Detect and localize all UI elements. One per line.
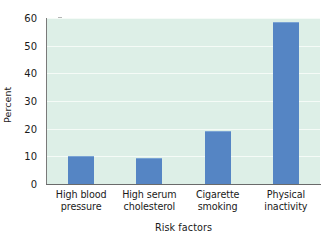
bar[interactable] <box>68 156 94 184</box>
x-axis-tick-labels: High bloodpressureHigh serumcholesterolC… <box>47 189 320 221</box>
y-tick-label: 50 <box>24 40 37 51</box>
x-tick-label: Physicalinactivity <box>246 189 326 212</box>
y-tick-label: 20 <box>24 123 37 134</box>
y-axis-tick-labels: 0102030405060 <box>16 0 42 250</box>
bar[interactable] <box>273 22 299 184</box>
y-tick-label: 40 <box>24 68 37 79</box>
y-tick-label: 0 <box>31 179 37 190</box>
x-axis-spine <box>46 184 321 185</box>
bar[interactable] <box>136 158 162 184</box>
y-tick-label: 60 <box>24 13 37 24</box>
x-tick-label-line: Physical <box>246 189 326 201</box>
bar[interactable] <box>205 131 231 184</box>
x-tick-label-line: inactivity <box>246 201 326 213</box>
x-axis-title: Risk factors <box>47 222 320 233</box>
y-axis-title: Percent <box>0 72 16 138</box>
y-tick-label: 30 <box>24 96 37 107</box>
bars-layer <box>47 18 320 184</box>
bar-chart-figure: Percent 0102030405060 High bloodpressure… <box>0 0 331 250</box>
y-tick-label: 10 <box>24 151 37 162</box>
plot-area <box>47 18 320 184</box>
